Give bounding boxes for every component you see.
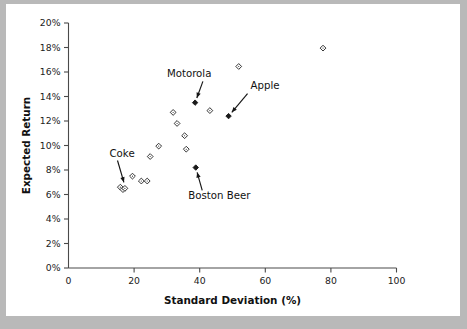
y-tick-label-18: 18% bbox=[40, 42, 61, 53]
data-point-center-6 bbox=[150, 156, 151, 157]
data-point-apple bbox=[226, 113, 231, 118]
annotations-layer: MotorolaAppleCokeBoston Beer bbox=[110, 68, 280, 202]
x-tick-label-60: 60 bbox=[259, 275, 271, 286]
y-tick-label-8: 8% bbox=[46, 164, 61, 175]
data-points-layer bbox=[117, 45, 326, 192]
data-point-center-5 bbox=[147, 180, 148, 181]
x-axis-title: Standard Deviation (%) bbox=[164, 294, 301, 306]
x-tick-label-100: 100 bbox=[388, 275, 406, 286]
y-tick-label-4: 4% bbox=[46, 213, 61, 224]
data-point-center-8 bbox=[173, 112, 174, 113]
data-point-center-16 bbox=[238, 66, 239, 67]
x-tick-label-80: 80 bbox=[325, 275, 337, 286]
y-tick-label-6: 6% bbox=[46, 189, 61, 200]
data-point-center-0 bbox=[120, 187, 121, 188]
data-point-center-17 bbox=[322, 48, 323, 49]
annotation-arrowhead-motorola bbox=[197, 92, 201, 98]
annotation-label-boston-beer: Boston Beer bbox=[188, 190, 251, 201]
y-tick-label-0: 0% bbox=[46, 262, 61, 273]
x-tick-label-0: 0 bbox=[66, 275, 72, 286]
scatter-chart: 0%2%4%6%8%10%12%14%16%18%20%020406080100… bbox=[0, 0, 467, 329]
annotation-arrowhead-coke bbox=[120, 177, 124, 183]
y-tick-label-10: 10% bbox=[40, 140, 61, 151]
data-point-motorola bbox=[192, 100, 197, 105]
data-point-center-4 bbox=[141, 180, 142, 181]
axes-layer: 0%2%4%6%8%10%12%14%16%18%20%020406080100 bbox=[40, 17, 406, 286]
y-tick-label-2: 2% bbox=[46, 238, 61, 249]
y-axis-title: Expected Return bbox=[20, 97, 32, 194]
data-point-center-2 bbox=[124, 188, 125, 189]
data-point-center-14 bbox=[209, 110, 210, 111]
x-tick-label-40: 40 bbox=[194, 275, 206, 286]
y-tick-label-16: 16% bbox=[40, 66, 61, 77]
y-tick-label-20: 20% bbox=[40, 17, 61, 28]
y-tick-label-14: 14% bbox=[40, 91, 61, 102]
y-tick-label-12: 12% bbox=[40, 115, 61, 126]
annotation-label-motorola: Motorola bbox=[167, 68, 212, 79]
annotation-label-coke: Coke bbox=[110, 148, 135, 159]
data-point-center-9 bbox=[177, 123, 178, 124]
data-point-boston-beer bbox=[193, 165, 198, 170]
annotation-arrowhead-boston-beer bbox=[196, 172, 200, 178]
data-point-center-3 bbox=[132, 176, 133, 177]
annotation-label-apple: Apple bbox=[251, 80, 280, 91]
figure-container: 0%2%4%6%8%10%12%14%16%18%20%020406080100… bbox=[0, 0, 467, 329]
data-point-center-10 bbox=[184, 135, 185, 136]
x-tick-label-20: 20 bbox=[128, 275, 140, 286]
data-point-center-11 bbox=[186, 149, 187, 150]
data-point-center-7 bbox=[158, 146, 159, 147]
